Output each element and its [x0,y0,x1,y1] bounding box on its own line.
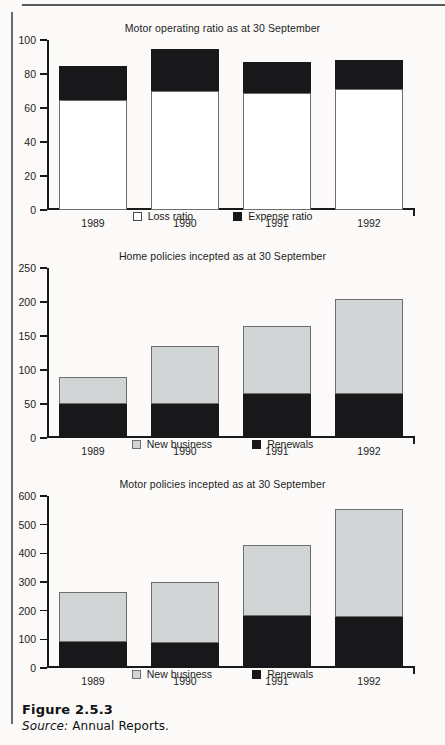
bar-segment [59,377,127,404]
bar-1989 [59,66,127,211]
y-axis-tick [40,175,47,176]
bar-segment [243,62,311,93]
y-axis-tick [40,610,47,611]
bar-segment [335,299,403,394]
y-axis [47,496,49,668]
plot-area: 0501001502002501989199019911992 [47,268,415,438]
bar-1992 [335,60,403,210]
source-label: Source: [22,719,68,733]
legend-swatch-icon [233,212,242,221]
y-axis-tick-label: 60 [24,103,36,114]
bar-segment [151,346,219,404]
chart-title: Motor operating ratio as at 30 September [0,22,445,34]
y-axis-tick-label: 100 [18,35,36,46]
legend-item: Renewals [252,438,313,450]
legend-swatch-icon [252,670,261,679]
chart-title: Home policies incepted as at 30 Septembe… [0,250,445,262]
legend-label: New business [147,668,212,680]
legend-swatch-icon [132,670,141,679]
legend-label: Renewals [267,438,313,450]
y-axis [47,268,49,438]
y-axis-tick [40,39,47,40]
y-axis-tick [40,524,47,525]
y-axis-tick-label: 100 [18,365,36,376]
figure-caption: Figure 2.5.3 Source: Annual Reports. [22,702,432,733]
bar-1991 [243,545,311,668]
bar-segment [243,394,311,438]
figure-page: Motor operating ratio as at 30 September… [0,0,445,745]
y-axis-tick [40,107,47,108]
figure-source: Source: Annual Reports. [22,719,432,733]
chart-home-policies-incepted: Home policies incepted as at 30 Septembe… [0,250,445,450]
bar-1990 [151,49,219,211]
y-axis-tick-label: 200 [18,297,36,308]
y-axis-tick-label: 40 [24,137,36,148]
y-axis-tick [40,73,47,74]
y-axis-tick-label: 80 [24,69,36,80]
bar-1990 [151,582,219,668]
legend-item: New business [132,668,212,680]
bar-1990 [151,346,219,438]
bar-segment [243,616,311,668]
bar-1992 [335,299,403,438]
bar-segment [59,592,127,642]
y-axis-tick [40,553,47,554]
source-value: Annual Reports. [72,719,169,733]
legend-item: Expense ratio [233,210,312,222]
bar-segment [243,93,311,210]
y-axis-tick-label: 250 [18,263,36,274]
y-axis-tick [40,495,47,496]
legend-label: New business [147,438,212,450]
bar-segment [151,404,219,438]
y-axis-tick [40,639,47,640]
bar-segment [59,100,127,211]
y-axis-tick [40,403,47,404]
bar-segment [335,60,403,89]
figure-number: Figure 2.5.3 [22,702,432,717]
bar-segment [335,617,403,668]
y-axis-tick-label: 400 [18,548,36,559]
chart-motor-policies-incepted: Motor policies incepted as at 30 Septemb… [0,478,445,683]
legend-item: Renewals [252,668,313,680]
chart-legend: Loss ratioExpense ratio [0,210,445,222]
bar-segment [335,509,403,617]
bar-segment [151,643,219,668]
bar-segment [151,582,219,643]
y-axis [47,40,49,210]
plot-area: 01002003004005006001989199019911992 [47,496,415,668]
chart-legend: New businessRenewals [0,668,445,680]
y-axis-tick-label: 500 [18,519,36,530]
bar-segment [151,49,219,92]
plot-area: 0204060801001989199019911992 [47,40,415,210]
legend-item: New business [132,438,212,450]
bar-1989 [59,592,127,668]
legend-swatch-icon [132,440,141,449]
bar-segment [59,642,127,668]
bar-segment [335,394,403,438]
bar-segment [151,91,219,210]
y-axis-tick-label: 100 [18,634,36,645]
bar-1991 [243,62,311,210]
bar-1989 [59,377,127,438]
legend-swatch-icon [252,440,261,449]
page-top-rule [22,4,445,6]
bar-segment [243,326,311,394]
y-axis-tick-label: 200 [18,605,36,616]
bar-1991 [243,326,311,438]
y-axis-tick [40,267,47,268]
y-axis-tick-label: 300 [18,577,36,588]
bar-segment [59,404,127,438]
bar-segment [335,89,403,210]
y-axis-tick-label: 20 [24,171,36,182]
y-axis-tick-label: 150 [18,331,36,342]
bar-segment [59,66,127,100]
y-axis-tick [40,581,47,582]
bar-1992 [335,509,403,668]
y-axis-tick [40,301,47,302]
y-axis-tick [40,335,47,336]
y-axis-tick-label: 600 [18,491,36,502]
legend-item: Loss ratio [133,210,194,222]
legend-swatch-icon [133,212,142,221]
legend-label: Renewals [267,668,313,680]
y-axis-tick [40,141,47,142]
